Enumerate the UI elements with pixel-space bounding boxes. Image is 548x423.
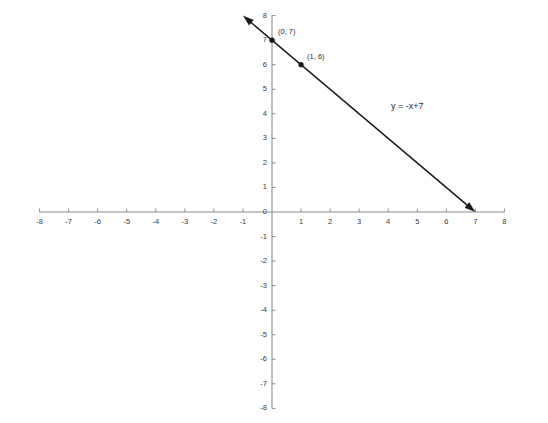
x-axis-tick-label: -2: [211, 218, 218, 226]
x-axis-tick-label: 3: [357, 218, 361, 226]
y-axis-tick-label: 5: [263, 86, 267, 94]
y-axis-tick-label: -4: [260, 306, 267, 314]
y-axis-tick-label: -6: [260, 356, 267, 364]
x-axis-tick-label: 6: [444, 218, 448, 226]
function-line-shaft: [248, 20, 471, 209]
point-marker: [269, 38, 274, 43]
y-axis-tick-label: -8: [260, 405, 267, 413]
y-axis-tick-label: -5: [260, 331, 267, 339]
x-axis-tick-label: 2: [328, 218, 332, 226]
x-axis-tick-label: -8: [36, 218, 43, 226]
x-axis-tick-label: 7: [473, 218, 477, 226]
x-axis-tick-label: -3: [182, 218, 189, 226]
x-axis-tick-label: 5: [415, 218, 419, 226]
equation-label: y = -x+7: [391, 102, 424, 111]
y-axis-tick-label: -1: [260, 233, 267, 241]
y-axis-tick-label: 2: [263, 159, 267, 167]
y-axis-tick-label: 6: [263, 61, 267, 69]
function-line-group: [243, 16, 475, 212]
point-coordinate-label: (1, 6): [307, 53, 325, 61]
x-axis-tick-label: 1: [299, 218, 303, 226]
axes-group: [40, 16, 505, 409]
y-axis-tick-label: 7: [263, 36, 267, 44]
x-axis-tick-label: 4: [386, 218, 390, 226]
coordinate-plane-graph: -8-7-6-5-4-3-2-11234567887654321-1-2-3-4…: [0, 0, 548, 423]
point-marker: [298, 62, 303, 67]
point-coordinate-label: (0, 7): [278, 28, 296, 36]
y-axis-tick-label: 1: [263, 184, 267, 192]
x-axis-tick-label: -1: [240, 218, 247, 226]
y-axis-tick-label: 3: [263, 135, 267, 143]
x-axis-tick-label: -5: [123, 218, 130, 226]
x-axis-tick-label: 8: [502, 218, 506, 226]
y-axis-tick-label: 4: [263, 110, 267, 118]
x-axis-tick-label: -7: [65, 218, 72, 226]
y-axis-tick-label: -7: [260, 380, 267, 388]
y-axis-tick-label: 8: [263, 12, 267, 20]
x-axis-tick-label: -6: [94, 218, 101, 226]
y-axis-tick-label: -3: [260, 282, 267, 290]
x-axis-tick-label: -4: [152, 218, 159, 226]
origin-label: 0: [263, 208, 267, 216]
y-axis-tick-label: -2: [260, 257, 267, 265]
graph-canvas: [0, 0, 548, 423]
